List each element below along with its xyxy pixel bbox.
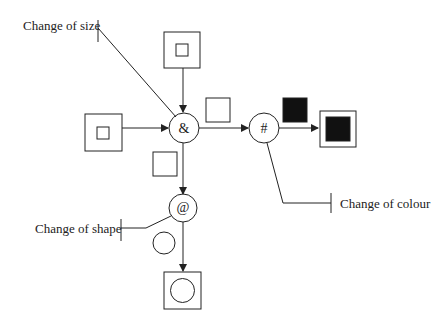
intermediate-black-square bbox=[283, 98, 307, 122]
shape-symbol: @ bbox=[177, 200, 190, 215]
size-label: Change of size bbox=[23, 18, 100, 33]
colour-symbol: # bbox=[261, 121, 268, 136]
intermediate-circle bbox=[153, 232, 175, 254]
intermediate-white-square-lower bbox=[153, 152, 177, 176]
combine-symbol: & bbox=[179, 121, 190, 136]
input-left-nested-square bbox=[85, 114, 122, 151]
input-top-nested-square bbox=[164, 32, 200, 68]
output-right-black-square bbox=[320, 111, 356, 147]
output-bottom-circle-in-square bbox=[164, 272, 201, 309]
shape-label-leader bbox=[121, 216, 171, 228]
shape-label: Change of shape bbox=[35, 221, 122, 236]
colour-label: Change of colour bbox=[340, 196, 431, 211]
intermediate-white-square bbox=[206, 98, 230, 122]
transformation-diagram: & # @ Change of size Change of colour Ch… bbox=[0, 0, 446, 326]
colour-label-leader bbox=[267, 143, 331, 203]
